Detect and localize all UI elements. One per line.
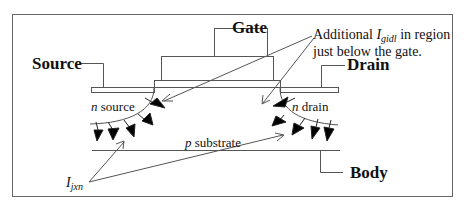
gidl-subscript: gidl <box>381 33 397 44</box>
ijxn-arrowhead-left <box>116 141 124 149</box>
gate-lead <box>215 29 231 57</box>
source-contact <box>92 88 155 93</box>
gidl-annotation-line2: just below the gate. <box>313 45 422 59</box>
n-source-label: n source <box>91 100 135 113</box>
n-drain-label: n drain <box>292 100 328 113</box>
drain-contact <box>281 88 339 93</box>
source-lead <box>80 64 104 88</box>
ijxn-subscript: jxn <box>71 181 83 192</box>
p-substrate-label: p substrate <box>185 136 241 149</box>
body-lead <box>321 150 344 173</box>
drain-lead <box>322 66 346 88</box>
gate-label: Gate <box>232 19 267 36</box>
gate-oxide <box>155 81 281 88</box>
p-substrate-suffix: substrate <box>192 135 241 150</box>
ijxn-label: Ijxn <box>66 176 83 192</box>
source-label: Source <box>32 55 82 72</box>
body-label: Body <box>350 164 388 181</box>
n-source-suffix: source <box>98 99 135 114</box>
gidl-suffix: in region <box>397 27 451 42</box>
gidl-annotation-line1: Additional Igidl in region <box>313 28 450 44</box>
n-drain-suffix: drain <box>299 99 329 114</box>
gidl-prefix: Additional <box>313 27 376 42</box>
ijxn-pointer-left <box>89 142 124 182</box>
